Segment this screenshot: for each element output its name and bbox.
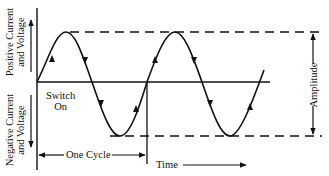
sine-wave-diagram bbox=[0, 0, 329, 176]
amplitude-label: Amplitude bbox=[308, 62, 319, 108]
positive-label: Positive Current and Voltage bbox=[4, 7, 26, 77]
negative-label: Negative Current and Voltage bbox=[4, 92, 26, 168]
curve-arrow-icon bbox=[49, 55, 55, 62]
curve-arrow-icon bbox=[207, 100, 213, 107]
one-cycle-label: One Cycle bbox=[66, 149, 111, 160]
curve-arrow-icon bbox=[247, 103, 253, 110]
switch-on-label: Switch On bbox=[46, 90, 75, 112]
curve-arrow-icon bbox=[191, 57, 197, 64]
curve-arrow-icon bbox=[82, 57, 88, 64]
sine-wave-curve bbox=[37, 32, 264, 136]
time-label: Time bbox=[156, 159, 178, 170]
